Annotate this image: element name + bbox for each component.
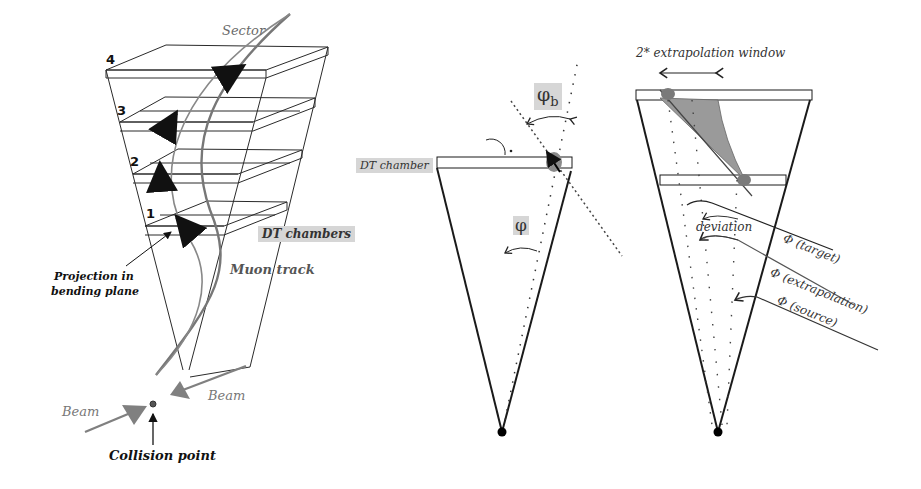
wedge-right-edge: [718, 100, 810, 432]
target-hit-blob: [661, 88, 675, 100]
wedge-left-edge: [437, 168, 502, 432]
phi-b-arc: [527, 116, 570, 124]
dt-chamber-label: DT chamber: [356, 158, 433, 173]
deviation-label: deviation: [696, 221, 752, 233]
station-3-label: 3: [117, 104, 126, 117]
beam-right-label: Beam: [208, 389, 245, 402]
phi-label: φ: [513, 216, 529, 235]
collision-dot: [150, 401, 156, 407]
dt-chambers-label: DT chambers: [258, 226, 355, 242]
station-2-label: 2: [130, 155, 139, 168]
projection-label-line1: Projection in: [54, 271, 134, 282]
collision-point-label: Collision point: [109, 449, 216, 462]
muon-trigger-diagram: Sector 4 3 2 1 DT chambers Muon track Pr…: [0, 0, 921, 489]
projection-label-line2: bending plane: [51, 286, 139, 297]
beam-left-label: Beam: [62, 405, 99, 418]
extrapolation-window-label: 2* extrapolation window: [636, 47, 785, 59]
phi-b-label: φb: [534, 83, 562, 110]
radial-dotted-line: [505, 60, 578, 420]
phi-b-symbol: φ: [537, 83, 550, 105]
wedge-right-edge: [502, 171, 571, 432]
phi-arc: [505, 248, 537, 253]
right-angle-arc: [486, 139, 505, 155]
bending-angle-panel: [437, 60, 622, 437]
muon-track-label: Muon track: [230, 263, 315, 276]
phi-b-subscript: b: [550, 94, 558, 109]
vertex-dot: [498, 428, 507, 437]
station-4-label: 4: [106, 53, 115, 66]
station-1-label: 1: [146, 207, 155, 220]
source-hit-blob: [737, 174, 751, 186]
deviation-arrow: [703, 216, 738, 219]
vertex-dot: [714, 428, 723, 437]
sector-label: Sector: [222, 24, 265, 37]
